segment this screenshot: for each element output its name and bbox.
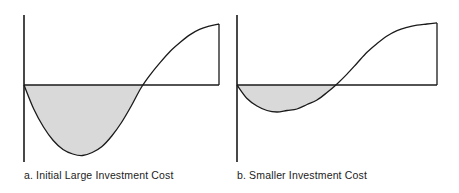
- chart-b-caption: b. Smaller Investment Cost: [229, 168, 459, 182]
- chart-panel-b: b. Smaller Investment Cost: [229, 0, 459, 193]
- chart-b-plot: [229, 0, 459, 170]
- chart-a-caption: a. Initial Large Investment Cost: [0, 168, 254, 182]
- chart-b-shaded-area: [237, 85, 335, 112]
- investment-cost-figure: a. Initial Large Investment Cost b. Smal…: [0, 0, 459, 193]
- chart-a-shaded-area: [24, 85, 143, 156]
- chart-a-plot: [0, 0, 230, 170]
- chart-panel-a: a. Initial Large Investment Cost: [0, 0, 230, 193]
